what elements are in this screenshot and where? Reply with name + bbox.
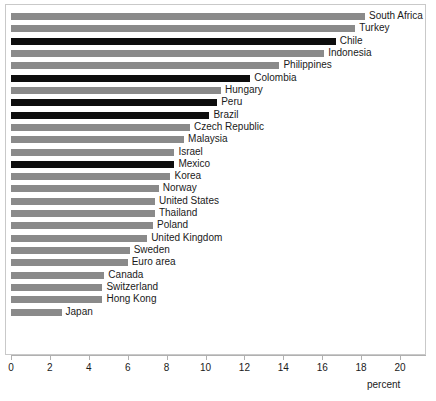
x-axis-tick	[11, 355, 12, 360]
bar	[11, 149, 174, 156]
bar-row: Malaysia	[11, 136, 425, 143]
x-axis-tick	[400, 355, 401, 360]
bar-row: United States	[11, 198, 425, 205]
x-axis-tick	[167, 355, 168, 360]
bar	[11, 222, 153, 229]
bar	[11, 112, 209, 119]
bar-category-label: Hungary	[221, 84, 263, 96]
bar-row: Euro area	[11, 259, 425, 266]
bar-category-label: Poland	[153, 219, 188, 231]
bar-category-label: Switzerland	[102, 281, 158, 293]
bar-category-label: Norway	[159, 182, 197, 194]
bar-category-label: Peru	[217, 96, 242, 108]
bar-category-label: Euro area	[128, 256, 176, 268]
bar-row: Korea	[11, 173, 425, 180]
x-axis-tick-label: 20	[394, 362, 405, 374]
x-axis-tick-label: 6	[125, 362, 131, 374]
bar	[11, 87, 221, 94]
bar-category-label: Japan	[62, 306, 93, 318]
bar-category-label: Brazil	[209, 109, 238, 121]
bar	[11, 99, 217, 106]
bar	[11, 284, 102, 291]
bar	[11, 62, 279, 69]
bar-row: Indonesia	[11, 50, 425, 57]
x-axis-title: percent	[367, 379, 400, 391]
bar	[11, 198, 155, 205]
bar-category-label: Mexico	[174, 158, 210, 170]
x-axis-tick-label: 4	[86, 362, 92, 374]
bar-row: United Kingdom	[11, 235, 425, 242]
x-axis-tick	[50, 355, 51, 360]
bar-row: Japan	[11, 309, 425, 316]
bar-row: Hungary	[11, 87, 425, 94]
bar-category-label: Chile	[336, 35, 363, 47]
bar-category-label: Hong Kong	[102, 293, 156, 305]
bar	[11, 161, 174, 168]
bar-category-label: Korea	[170, 170, 201, 182]
bar	[11, 75, 250, 82]
bar-row: Hong Kong	[11, 296, 425, 303]
x-axis-line	[11, 355, 426, 356]
bar-row: Canada	[11, 272, 425, 279]
bar	[11, 272, 104, 279]
bar-category-label: Indonesia	[324, 47, 371, 59]
bar	[11, 296, 102, 303]
bar	[11, 50, 324, 57]
bar-category-label: Philippines	[279, 59, 331, 71]
bar	[11, 235, 147, 242]
bar	[11, 185, 159, 192]
bar-chart: South AfricaTurkeyChileIndonesiaPhilippi…	[0, 0, 436, 401]
x-axis-tick	[283, 355, 284, 360]
plot-area: South AfricaTurkeyChileIndonesiaPhilippi…	[11, 6, 425, 354]
bar	[11, 25, 355, 32]
bar-category-label: United States	[155, 195, 219, 207]
bar-row: Turkey	[11, 25, 425, 32]
x-axis-tick-label: 8	[164, 362, 170, 374]
bar	[11, 309, 62, 316]
bar-category-label: Czech Republic	[190, 121, 264, 133]
bar-row: Poland	[11, 222, 425, 229]
x-axis-tick-label: 0	[8, 362, 14, 374]
x-axis-tick	[206, 355, 207, 360]
x-axis-tick-label: 14	[278, 362, 289, 374]
bar-row: Israel	[11, 149, 425, 156]
bar-category-label: South Africa	[365, 10, 423, 22]
bar-row: Switzerland	[11, 284, 425, 291]
x-axis-tick	[89, 355, 90, 360]
bar	[11, 210, 155, 217]
bar	[11, 13, 365, 20]
bar-row: Peru	[11, 99, 425, 106]
x-axis-tick	[322, 355, 323, 360]
bar	[11, 38, 336, 45]
bar-category-label: Israel	[174, 146, 202, 158]
bar-row: Colombia	[11, 75, 425, 82]
bar-row: Chile	[11, 38, 425, 45]
bar-row: Czech Republic	[11, 124, 425, 131]
bar-category-label: United Kingdom	[147, 232, 222, 244]
bar	[11, 136, 184, 143]
bar	[11, 247, 130, 254]
bar	[11, 173, 170, 180]
x-axis-tick-label: 10	[200, 362, 211, 374]
x-axis-tick-label: 2	[47, 362, 53, 374]
bar	[11, 259, 128, 266]
bar-row: Sweden	[11, 247, 425, 254]
bar-row: South Africa	[11, 13, 425, 20]
x-axis-tick	[128, 355, 129, 360]
x-axis-tick	[244, 355, 245, 360]
bar-category-label: Thailand	[155, 207, 197, 219]
bar-category-label: Sweden	[130, 244, 170, 256]
bar-row: Thailand	[11, 210, 425, 217]
bar-row: Philippines	[11, 62, 425, 69]
x-axis-tick-label: 18	[356, 362, 367, 374]
bar-row: Norway	[11, 185, 425, 192]
bar-category-label: Colombia	[250, 72, 296, 84]
bar-category-label: Turkey	[355, 22, 389, 34]
bar-row: Mexico	[11, 161, 425, 168]
bar	[11, 124, 190, 131]
x-axis-tick-label: 12	[239, 362, 250, 374]
x-axis-tick-label: 16	[317, 362, 328, 374]
bar-category-label: Canada	[104, 269, 143, 281]
bar-row: Brazil	[11, 112, 425, 119]
bar-category-label: Malaysia	[184, 133, 227, 145]
